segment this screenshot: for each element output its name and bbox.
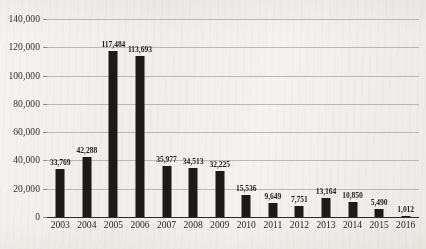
bar-slot: 13,164	[313, 19, 340, 217]
bars-group: 33,76942,288117,484113,69335,97734,51332…	[47, 19, 419, 217]
bar-value-label: 7,751	[291, 195, 308, 204]
x-tick-label: 2005	[104, 219, 123, 230]
bar[interactable]	[162, 166, 171, 217]
x-tick-label: 2013	[316, 219, 335, 230]
bar[interactable]	[242, 195, 251, 217]
bar[interactable]	[82, 157, 91, 217]
bar-value-label: 34,513	[183, 157, 204, 166]
bar-value-label: 5,490	[371, 198, 388, 207]
x-tick-label: 2004	[77, 219, 96, 230]
bar-slot: 10,850	[339, 19, 366, 217]
bar[interactable]	[268, 203, 277, 217]
bar-slot: 35,977	[153, 19, 180, 217]
bar[interactable]	[401, 216, 410, 217]
bar-slot: 1,012	[392, 19, 419, 217]
bar[interactable]	[135, 56, 144, 217]
x-axis-labels: 2003200420052006200720082009201020112012…	[47, 219, 419, 237]
y-tick-label: 40,000	[0, 155, 40, 165]
bar-value-label: 35,977	[156, 155, 177, 164]
bar[interactable]	[348, 202, 357, 217]
bar-value-label: 1,012	[397, 205, 414, 214]
plot-area: 33,76942,288117,484113,69335,97734,51332…	[47, 19, 419, 217]
bar-slot: 42,288	[74, 19, 101, 217]
bar-chart: 33,76942,288117,484113,69335,97734,51332…	[0, 0, 426, 249]
x-tick-label: 2007	[157, 219, 176, 230]
x-tick-label: 2003	[51, 219, 70, 230]
bar[interactable]	[109, 51, 118, 217]
bar-value-label: 117,484	[101, 40, 125, 49]
bar-slot: 7,751	[286, 19, 313, 217]
bar-value-label: 113,693	[128, 45, 152, 54]
x-tick-label: 2014	[343, 219, 362, 230]
x-tick-label: 2008	[184, 219, 203, 230]
x-tick-label: 2010	[237, 219, 256, 230]
axis-baseline	[47, 217, 419, 218]
y-tick-label: 60,000	[0, 127, 40, 137]
x-tick-label: 2009	[210, 219, 229, 230]
y-tick-label: 80,000	[0, 99, 40, 109]
y-tick-label: 0	[0, 212, 40, 222]
y-tick-label: 120,000	[0, 42, 40, 52]
y-tick-label: 140,000	[0, 14, 40, 24]
x-tick-label: 2016	[396, 219, 415, 230]
bar-slot: 33,769	[47, 19, 74, 217]
bar-slot: 113,693	[127, 19, 154, 217]
bar-slot: 117,484	[100, 19, 127, 217]
bar[interactable]	[215, 171, 224, 217]
bar-slot: 32,225	[206, 19, 233, 217]
bar[interactable]	[295, 206, 304, 217]
bar-value-label: 32,225	[209, 160, 230, 169]
bar-slot: 5,490	[366, 19, 393, 217]
bar-value-label: 33,769	[50, 158, 71, 167]
bar-slot: 15,536	[233, 19, 260, 217]
bar[interactable]	[56, 169, 65, 217]
y-tick-label: 100,000	[0, 71, 40, 81]
x-tick-label: 2011	[263, 219, 282, 230]
y-tick-label: 20,000	[0, 184, 40, 194]
y-tick-mark	[43, 217, 47, 218]
bar-value-label: 15,536	[236, 184, 257, 193]
bar-slot: 34,513	[180, 19, 207, 217]
bar-value-label: 42,288	[77, 146, 98, 155]
x-tick-label: 2015	[370, 219, 389, 230]
bar[interactable]	[321, 198, 330, 217]
bar-slot: 9,649	[260, 19, 287, 217]
bar[interactable]	[375, 209, 384, 217]
bar[interactable]	[189, 168, 198, 217]
x-tick-label: 2006	[130, 219, 149, 230]
x-tick-label: 2012	[290, 219, 309, 230]
bar-value-label: 9,649	[264, 192, 281, 201]
bar-value-label: 13,164	[316, 187, 337, 196]
bar-value-label: 10,850	[342, 191, 363, 200]
